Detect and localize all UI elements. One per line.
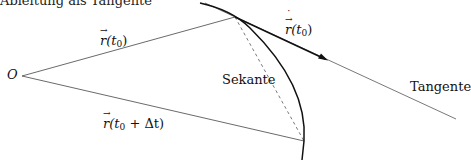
vector-r-t0-line bbox=[22, 17, 235, 76]
vector-r-dot-symbol: r bbox=[285, 23, 291, 36]
vector-r-symbol: r bbox=[100, 34, 106, 47]
label-r-dot-t0: r(t0) bbox=[285, 23, 312, 38]
tangent-label: Tangente bbox=[410, 80, 471, 93]
derivative-arrowhead-icon bbox=[318, 54, 328, 61]
label-r-t0-plus-dt: r(t0 + Δt) bbox=[103, 117, 164, 132]
label-r-t0: r(t0) bbox=[100, 34, 127, 49]
vector-r-symbol: r bbox=[103, 117, 109, 130]
secant-label: Sekante bbox=[222, 73, 276, 86]
origin-label: O bbox=[7, 68, 18, 81]
